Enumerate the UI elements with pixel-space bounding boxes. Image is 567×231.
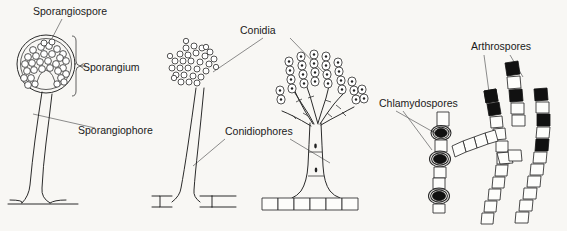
conidia-cluster [167, 38, 218, 86]
sporangium-structure [8, 35, 78, 204]
label-sporangiophore: Sporangiophore [78, 124, 153, 136]
sporangium-brace [72, 36, 86, 96]
label-chlamydospores: Chlamydospores [379, 97, 458, 109]
label-conidiophores: Conidiophores [225, 125, 293, 137]
chlamydospore-structure [429, 112, 452, 213]
arthrospore-branch-upper-left [452, 130, 498, 157]
arthrospore-structure [452, 61, 550, 224]
arthrospore-branch-middle [505, 61, 525, 126]
conidia-chains [276, 50, 368, 104]
fungal-spore-diagram: Sporangiospore Sporangium Sporangiophore… [0, 0, 567, 231]
label-sporangium: Sporangium [83, 61, 140, 73]
label-sporangiospore: Sporangiospore [33, 5, 107, 17]
conidial-head-structure [152, 38, 236, 207]
label-conidia: Conidia [240, 24, 276, 36]
basal-hypha-cells [262, 198, 358, 210]
label-arthrospores: Arthrospores [471, 40, 531, 52]
